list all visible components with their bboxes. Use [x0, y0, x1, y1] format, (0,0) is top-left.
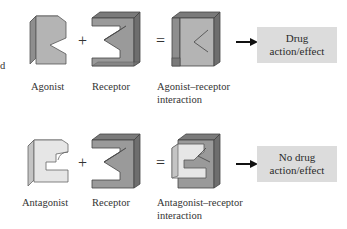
complex-label-line2: interaction [157, 94, 202, 106]
complex-label-line1: Agonist–receptor [157, 81, 230, 93]
complex-label-line1: Antagonist–receptor [157, 197, 243, 209]
outcome-line1: No drug [270, 151, 325, 164]
agonist-receptor-complex-icon [170, 10, 226, 74]
outcome-box-no-drug-action: No drug action/effect [257, 146, 337, 182]
plus-sign: + [78, 155, 87, 171]
arrow-icon [236, 38, 258, 46]
equals-sign: = [156, 155, 165, 171]
equals-sign: = [156, 33, 165, 49]
outcome-line2: action/effect [270, 45, 325, 58]
complex-label-line2: interaction [157, 210, 202, 222]
outcome-line1: Drug [270, 32, 325, 45]
outcome-box-drug-action: Drug action/effect [257, 27, 337, 63]
plus-sign: + [78, 33, 87, 49]
antagonist-receptor-complex-icon [170, 132, 226, 196]
antagonist-block-icon [26, 138, 74, 190]
receptor-label: Receptor [92, 81, 130, 93]
agonist-block-icon [28, 14, 74, 70]
edge-text-fragment: d [0, 60, 5, 72]
arrow-icon [236, 160, 258, 168]
receptor-block-icon [90, 10, 150, 74]
antagonist-label: Antagonist [22, 197, 68, 209]
agonist-label: Agonist [31, 81, 64, 93]
receptor-block-icon [90, 132, 150, 196]
receptor-label: Receptor [92, 197, 130, 209]
outcome-line2: action/effect [270, 164, 325, 177]
